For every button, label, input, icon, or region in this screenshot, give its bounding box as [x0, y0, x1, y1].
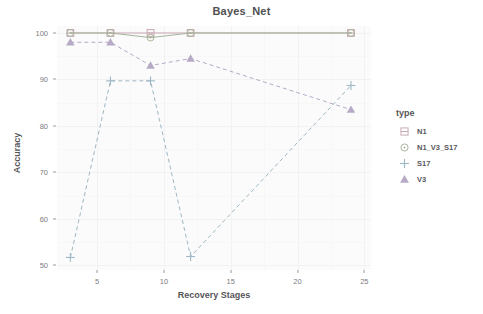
x-tick-label: 15: [216, 277, 246, 286]
triangle-marker-icon: [146, 61, 155, 68]
plus-marker-icon: [106, 76, 115, 85]
plot-panel: [57, 26, 371, 270]
y-tick-label: 90: [8, 75, 48, 84]
legend-items: N1N1_V3_S17S17V3: [396, 124, 482, 187]
y-tick-label: 70: [8, 168, 48, 177]
y-tick-mark: [53, 172, 56, 173]
y-axis-title: Accuracy: [12, 103, 22, 203]
y-tick-mark: [53, 265, 56, 266]
plus-marker-icon: [146, 76, 155, 85]
y-tick-mark: [53, 218, 56, 219]
chart-title: Bayes_Net: [0, 5, 483, 17]
legend-item-s17[interactable]: S17: [396, 156, 482, 171]
plus-marker-icon: [66, 253, 75, 262]
plus-marker-icon: [396, 156, 413, 171]
y-tick-label: 60: [8, 214, 48, 223]
y-tick-mark: [53, 79, 56, 80]
data-series-layer: [57, 26, 371, 270]
legend-item-label: V3: [417, 175, 426, 184]
legend-item-label: N1: [417, 127, 427, 136]
triangle-marker-icon: [66, 38, 75, 45]
x-tick-mark: [97, 270, 98, 273]
x-tick-label: 25: [349, 277, 379, 286]
x-tick-label: 20: [283, 277, 313, 286]
y-tick-mark: [53, 125, 56, 126]
circle-dot-marker-icon: [396, 140, 413, 155]
y-tick-label: 100: [8, 28, 48, 37]
plus-marker-icon: [400, 159, 409, 168]
y-tick-mark: [53, 32, 56, 33]
x-tick-label: 5: [82, 277, 112, 286]
square-line-marker-icon: [401, 128, 408, 135]
y-tick-label: 50: [8, 261, 48, 270]
triangle-marker-icon: [106, 38, 115, 45]
x-tick-mark: [364, 270, 365, 273]
triangle-marker-icon: [396, 172, 413, 187]
legend-item-label: S17: [417, 159, 430, 168]
x-axis-title: Recovery Stages: [57, 290, 371, 300]
legend-item-v3[interactable]: V3: [396, 172, 482, 187]
triangle-marker-icon: [347, 105, 356, 112]
series-line: [70, 42, 351, 109]
square-line-marker-icon: [396, 124, 413, 139]
legend: type N1N1_V3_S17S17V3: [396, 108, 482, 188]
chart-root: Bayes_Net Accuracy 1009080706050 5101520…: [0, 0, 483, 314]
triangle-marker-icon: [400, 175, 409, 183]
legend-item-n1[interactable]: N1: [396, 124, 482, 139]
circle-dot-marker-icon: [401, 144, 408, 151]
series-v3: [66, 38, 355, 113]
legend-title: type: [396, 108, 482, 118]
legend-item-n1_v3_s17[interactable]: N1_V3_S17: [396, 140, 482, 155]
y-tick-label: 80: [8, 121, 48, 130]
x-tick-mark: [297, 270, 298, 273]
x-tick-label: 10: [149, 277, 179, 286]
legend-item-label: N1_V3_S17: [417, 143, 457, 152]
plus-marker-icon: [186, 252, 195, 261]
x-tick-mark: [230, 270, 231, 273]
series-line: [70, 81, 351, 258]
triangle-marker-icon: [186, 54, 195, 61]
series-s17: [66, 76, 355, 261]
x-tick-mark: [163, 270, 164, 273]
